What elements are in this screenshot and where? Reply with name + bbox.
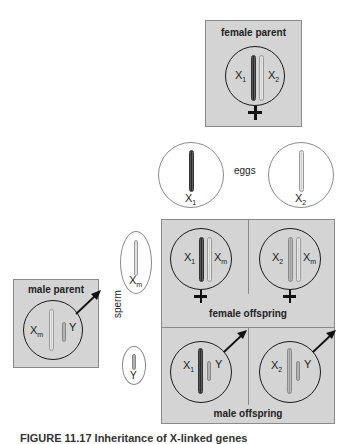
- chromosome-x1: [198, 348, 203, 394]
- egg-x1-label: X1: [185, 192, 196, 206]
- label-x1: X1: [235, 69, 246, 83]
- sperm-y: Y: [122, 346, 146, 385]
- offspring-grid: X1 Xm X2 Xm female offspring X1 Y X2 Y m…: [161, 219, 335, 424]
- male-parent-box: male parent Xm Y: [13, 279, 99, 368]
- label-x2: X2: [268, 69, 279, 83]
- female-parent-box: female parent X1 X2: [205, 20, 302, 127]
- label-x1: X1: [183, 359, 194, 373]
- label-x2: X2: [271, 359, 282, 373]
- female-symbol-cross-icon: [283, 290, 296, 303]
- female-symbol-cross-icon: [248, 106, 262, 120]
- label-xm: Xm: [214, 251, 227, 265]
- label-y: Y: [215, 358, 222, 370]
- label-x1: X1: [184, 251, 195, 265]
- vertical-divider: [248, 220, 249, 294]
- eggs-label: eggs: [234, 165, 256, 176]
- sperm-label: sperm: [112, 290, 123, 318]
- female-symbol-cross-icon: [194, 290, 207, 303]
- chromosome-y: [62, 322, 66, 342]
- sperm-xm-label: Xm: [129, 274, 142, 288]
- male-arrow-icon: [74, 288, 104, 318]
- male-offspring-label: male offspring: [162, 408, 334, 419]
- sperm-xm-chromosome: [134, 240, 138, 276]
- label-y: Y: [69, 321, 76, 333]
- female-parent-title: female parent: [206, 27, 301, 38]
- egg-x2: X2: [268, 142, 334, 208]
- egg-x1: X1: [158, 142, 224, 208]
- chromosome-xm: [296, 237, 301, 282]
- chromosome-y: [296, 361, 300, 381]
- chromosome-x2: [259, 55, 264, 101]
- figure-caption: FIGURE 11.17 Inheritance of X-linked gen…: [20, 432, 247, 444]
- chromosome-xm: [207, 237, 212, 282]
- label-xm: Xm: [30, 324, 43, 338]
- chromosome-x2: [287, 348, 292, 394]
- sperm-xm: Xm: [120, 231, 152, 294]
- chromosome-x2: [288, 237, 293, 282]
- chromosome-xm: [49, 309, 54, 351]
- label-x2: X2: [272, 251, 283, 265]
- sperm-y-chromosome: [132, 354, 136, 370]
- chromosome-x1: [251, 55, 256, 101]
- egg-x2-label: X2: [295, 192, 306, 206]
- egg-x2-chromosome: [299, 150, 304, 192]
- chromosome-y: [207, 361, 211, 381]
- label-y: Y: [304, 358, 311, 370]
- egg-x1-chromosome: [189, 150, 194, 192]
- female-offspring-label: female offspring: [162, 308, 334, 319]
- chromosome-x1: [199, 237, 204, 282]
- label-xm: Xm: [303, 251, 316, 265]
- sperm-y-label: Y: [130, 370, 137, 381]
- male-arrow-icon: [222, 328, 250, 356]
- male-arrow-icon: [311, 328, 339, 356]
